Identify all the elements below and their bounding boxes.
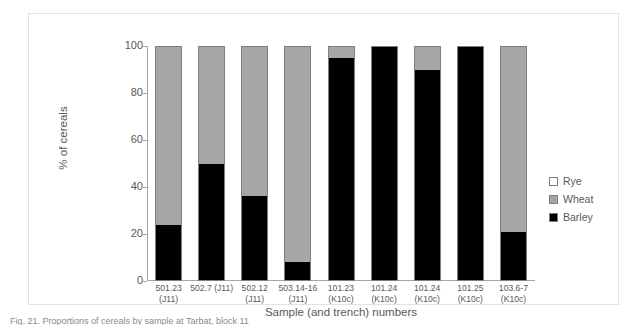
bar-segment-barley[interactable]: [371, 46, 398, 281]
bar-segment-barley[interactable]: [500, 232, 527, 281]
bar-segment-wheat[interactable]: [155, 46, 182, 225]
y-tick-mark: [143, 93, 147, 94]
bar-segment-wheat[interactable]: [328, 46, 355, 58]
y-axis-title: % of cereals: [57, 68, 69, 208]
x-tick-label: 103.6-7(K10c): [483, 283, 543, 305]
chart-frame: % of cereals 020406080100 501.23(J11)502…: [28, 13, 619, 305]
bar-segment-barley[interactable]: [284, 262, 311, 281]
y-tick-mark: [143, 187, 147, 188]
legend-label: Barley: [563, 211, 593, 223]
legend-swatch-wheat-icon: [549, 195, 558, 204]
bar-column[interactable]: [371, 46, 398, 281]
bar-segment-barley[interactable]: [198, 164, 225, 282]
bar-segment-wheat[interactable]: [500, 46, 527, 232]
bar-column[interactable]: [284, 46, 311, 281]
y-tick-label: 60: [103, 134, 143, 145]
bar-segment-barley[interactable]: [457, 46, 484, 281]
y-tick-mark: [143, 140, 147, 141]
y-tick-mark: [143, 234, 147, 235]
bar-column[interactable]: [155, 46, 182, 281]
bar-segment-barley[interactable]: [155, 225, 182, 281]
legend-item-barley[interactable]: Barley: [549, 208, 629, 226]
y-tick-label: 100: [103, 40, 143, 51]
legend-item-wheat[interactable]: Wheat: [549, 190, 629, 208]
legend-swatch-barley-icon: [549, 213, 558, 222]
bar-column[interactable]: [414, 46, 441, 281]
bar-column[interactable]: [500, 46, 527, 281]
x-tick-label-line: 103.6-7: [483, 283, 543, 294]
bar-segment-wheat[interactable]: [414, 46, 441, 70]
y-tick-mark: [143, 46, 147, 47]
figure-container: % of cereals 020406080100 501.23(J11)502…: [0, 0, 635, 325]
legend-label: Wheat: [563, 193, 593, 205]
legend-swatch-rye-icon: [549, 177, 558, 186]
y-tick-mark: [143, 281, 147, 282]
figure-caption: Fig. 21. Proportions of cereals by sampl…: [10, 316, 610, 325]
y-tick-label: 80: [103, 87, 143, 98]
y-tick-label: 40: [103, 181, 143, 192]
bar-column[interactable]: [328, 46, 355, 281]
legend-item-rye[interactable]: Rye: [549, 172, 629, 190]
bar-segment-wheat[interactable]: [198, 46, 225, 164]
bar-column[interactable]: [457, 46, 484, 281]
bar-segment-barley[interactable]: [241, 196, 268, 281]
plot-area: [147, 46, 535, 281]
x-tick-label-line: (J11): [139, 294, 199, 305]
bar-column[interactable]: [198, 46, 225, 281]
bar-segment-wheat[interactable]: [241, 46, 268, 196]
y-tick-label: 20: [103, 228, 143, 239]
chart-legend: RyeWheatBarley: [549, 172, 629, 226]
legend-label: Rye: [563, 175, 582, 187]
bar-segment-wheat[interactable]: [284, 46, 311, 262]
y-axis-tick-labels: 020406080100: [97, 14, 143, 306]
y-tick-label: 0: [103, 275, 143, 286]
bar-segment-barley[interactable]: [328, 58, 355, 281]
bar-segment-barley[interactable]: [414, 70, 441, 282]
x-tick-label-line: (K10c): [483, 294, 543, 305]
bar-column[interactable]: [241, 46, 268, 281]
